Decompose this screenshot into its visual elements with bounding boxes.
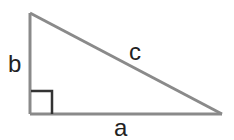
side-c-hypotenuse [30,13,222,114]
label-c: c [129,40,141,64]
right-angle-mark [31,91,52,114]
label-b: b [8,52,21,76]
label-a: a [114,116,127,140]
